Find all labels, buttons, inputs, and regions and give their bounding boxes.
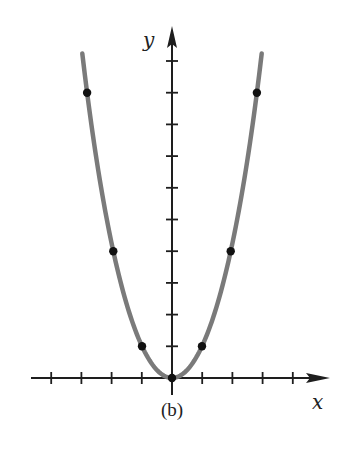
data-point bbox=[83, 89, 91, 97]
y-axis bbox=[166, 26, 178, 395]
parabola-figure: y x (b) bbox=[0, 0, 338, 451]
data-point bbox=[138, 342, 146, 350]
figure-caption: (b) bbox=[161, 400, 183, 419]
data-point bbox=[253, 89, 261, 97]
x-axis-label: x bbox=[312, 392, 323, 412]
data-point bbox=[227, 247, 235, 255]
data-point bbox=[198, 342, 206, 350]
y-axis-label: y bbox=[143, 30, 154, 50]
data-point bbox=[109, 247, 117, 255]
plot-area bbox=[0, 0, 338, 451]
data-point bbox=[168, 374, 176, 382]
